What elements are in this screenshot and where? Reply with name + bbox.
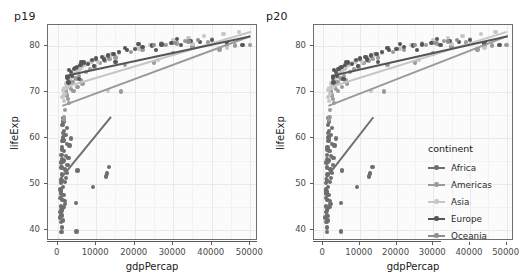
data-point	[336, 89, 340, 93]
data-point	[344, 60, 348, 64]
x-axis-title-p19: gdpPercap	[126, 261, 179, 272]
gridline-horizontal	[314, 138, 512, 139]
x-tick-mark	[57, 242, 58, 245]
data-point	[71, 89, 75, 93]
data-point	[233, 43, 237, 47]
data-point	[107, 165, 111, 169]
data-point	[60, 147, 64, 151]
legend-item-oceania[interactable]: Oceania	[428, 228, 492, 243]
y-tick-mark	[44, 229, 47, 230]
data-point	[106, 53, 110, 57]
legend-title: continent	[428, 143, 492, 154]
legend-item-europe[interactable]: Europe	[428, 211, 492, 226]
legend-item-label: Europe	[451, 214, 482, 224]
y-tick-mark	[310, 137, 313, 138]
data-point	[186, 39, 190, 43]
data-point	[79, 60, 83, 64]
data-point	[63, 133, 67, 137]
data-point	[415, 48, 419, 52]
gridline-horizontal-minor	[48, 207, 256, 208]
data-point	[69, 136, 73, 140]
data-point	[329, 133, 333, 137]
data-point	[330, 126, 334, 130]
data-point	[136, 42, 140, 46]
x-tick-mark	[249, 242, 250, 245]
gridline-horizontal	[314, 92, 512, 93]
data-point	[129, 50, 133, 54]
data-point	[446, 39, 450, 43]
data-point	[490, 43, 494, 47]
y-axis-title-p20: lifeExp	[275, 116, 286, 150]
data-point	[504, 43, 508, 47]
legend-key-dot	[434, 182, 438, 186]
panel-title-p19: p19	[14, 10, 36, 23]
y-tick-mark	[44, 137, 47, 138]
data-point	[340, 168, 344, 172]
data-point	[75, 168, 79, 172]
legend-item-americas[interactable]: Americas	[428, 177, 492, 192]
data-point	[133, 47, 137, 51]
x-tick-label: 30000	[159, 247, 186, 257]
legend-item-label: Oceania	[451, 231, 487, 241]
data-point	[438, 43, 442, 47]
x-tick-label: 0	[54, 247, 59, 257]
data-point	[497, 43, 501, 47]
data-point	[420, 42, 424, 46]
x-axis-line	[47, 241, 257, 242]
legend-item-label: Africa	[451, 163, 476, 173]
data-point	[460, 34, 464, 38]
y-tick-label: 40	[14, 224, 40, 234]
data-point	[339, 229, 343, 233]
data-point	[140, 45, 144, 49]
data-point	[382, 89, 386, 93]
data-point	[358, 56, 362, 60]
data-point	[61, 193, 65, 197]
x-tick-label: 50000	[492, 247, 519, 257]
data-point	[370, 165, 374, 169]
data-point	[75, 85, 79, 89]
data-point	[163, 43, 167, 47]
data-point	[221, 32, 225, 36]
y-tick-mark	[310, 91, 313, 92]
y-tick-label: 70	[280, 86, 306, 96]
legend-key-dot	[434, 233, 438, 237]
x-tick-label: 30000	[419, 247, 446, 257]
data-point	[159, 42, 163, 46]
x-tick-mark	[396, 242, 397, 245]
x-tick-label: 40000	[197, 247, 224, 257]
data-point	[479, 32, 483, 36]
data-point	[385, 46, 389, 50]
x-tick-mark	[95, 242, 96, 245]
legend-key-dot	[434, 216, 438, 220]
data-point	[59, 208, 63, 212]
legend-item-label: Americas	[451, 180, 492, 190]
legend-item-label: Asia	[451, 197, 469, 207]
data-point	[328, 180, 332, 184]
data-point	[59, 220, 63, 224]
legend-key-swatch	[428, 196, 445, 208]
y-tick-label: 80	[280, 40, 306, 50]
legend-key-swatch	[428, 213, 445, 225]
x-axis-title-p20: gdpPercap	[387, 261, 440, 272]
data-point	[152, 43, 156, 47]
gridline-horizontal-minor	[48, 115, 256, 116]
data-point	[240, 43, 244, 47]
data-point	[332, 143, 336, 147]
gridline-horizontal-minor	[48, 161, 256, 162]
data-point	[326, 193, 330, 197]
y-tick-label: 50	[280, 178, 306, 188]
legend-item-asia[interactable]: Asia	[428, 194, 492, 209]
data-point	[324, 187, 328, 191]
legend-key-swatch	[428, 230, 445, 242]
data-point	[65, 126, 69, 130]
data-point	[324, 220, 328, 224]
data-point	[63, 108, 67, 112]
x-axis-line	[313, 241, 441, 242]
data-point	[248, 43, 252, 47]
data-point	[374, 52, 378, 56]
gridline-horizontal-minor	[314, 115, 512, 116]
legend-item-africa[interactable]: Africa	[428, 160, 492, 175]
data-point	[329, 176, 333, 180]
data-point	[394, 47, 398, 51]
x-tick-mark	[359, 242, 360, 245]
